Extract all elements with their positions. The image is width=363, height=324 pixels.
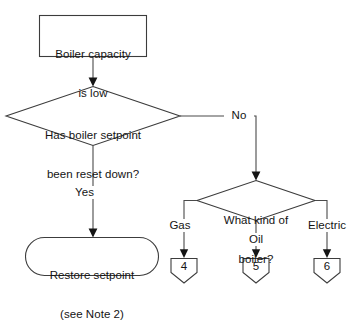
setpoint-decision-line2: been reset down? [13,168,173,181]
edge-label-yes: Yes [70,186,96,199]
edge-label-no: No [224,109,254,122]
restore-setpoint-line1: Restore setpoint [22,269,162,282]
restore-setpoint-node-label: Restore setpoint (see Note 2) [22,243,162,324]
arrowhead-no-branch [252,172,261,181]
start-node-line2: is low [33,87,153,100]
offpage-connector-4-label: 4 [171,260,197,273]
offpage-connector-6-label: 6 [314,260,340,273]
edge-label-oil: Oil [239,233,273,246]
edge-no-branch [180,116,256,174]
arrowhead-yes-branch [89,229,98,238]
edge-label-electric: Electric [298,219,356,232]
restore-setpoint-line2: (see Note 2) [22,308,162,321]
arrowhead-electric-branch [323,249,331,258]
setpoint-decision-line1: Has boiler setpoint [13,129,173,142]
edge-label-gas: Gas [158,219,202,232]
arrowhead-gas-branch [180,249,188,258]
offpage-connector-5-label: 5 [243,260,269,273]
start-node-line1: Boiler capacity [33,48,153,61]
